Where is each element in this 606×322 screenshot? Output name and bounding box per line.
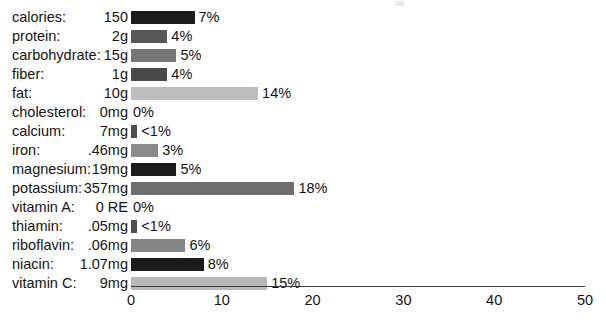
- nutrient-row: .05mgthiamin:<1%: [0, 217, 606, 236]
- nutrient-label: cholesterol:: [12, 103, 86, 122]
- bar: [131, 68, 167, 81]
- nutrient-label: iron:: [12, 141, 40, 160]
- nutrient-label: fat:: [12, 84, 32, 103]
- bar-track: 14%: [131, 84, 606, 103]
- bar-track: 5%: [131, 46, 606, 65]
- nutrient-row: .06mgriboflavin:6%: [0, 236, 606, 255]
- nutrient-label: niacin:: [12, 255, 54, 274]
- bar-track: 15%: [131, 274, 606, 293]
- bar-value-label: 14%: [262, 84, 291, 103]
- bar: [131, 239, 185, 252]
- bar-value-label: <1%: [141, 217, 170, 236]
- bar: [131, 182, 294, 195]
- bar-track: 0%: [131, 198, 606, 217]
- bar-value-label: 15%: [271, 274, 300, 293]
- nutrient-label: calcium:: [12, 122, 65, 141]
- nutrient-row: 150calories:7%: [0, 8, 606, 27]
- x-axis-tick-label: 0: [127, 291, 135, 309]
- nutrient-row: 15gcarbohydrate:5%: [0, 46, 606, 65]
- nutrient-label: thiamin:: [12, 217, 63, 236]
- nutrient-row: 10gfat:14%: [0, 84, 606, 103]
- x-axis-tick-label: 40: [486, 291, 502, 309]
- bar-value-label: 5%: [180, 46, 201, 65]
- bar-track: 7%: [131, 8, 606, 27]
- x-axis-tick-label: 50: [577, 291, 593, 309]
- nutrient-row: .46mgiron:3%: [0, 141, 606, 160]
- bar: [131, 258, 204, 271]
- bar-track: 3%: [131, 141, 606, 160]
- bar: [131, 144, 158, 157]
- bar-track: 4%: [131, 65, 606, 84]
- nutrient-label: carbohydrate:: [12, 46, 101, 65]
- bar: [131, 49, 176, 62]
- nutrition-bar-chart: 150calories:7%2gprotein:4%15gcarbohydrat…: [0, 0, 606, 322]
- bar: [131, 11, 195, 24]
- bar-value-label: 0%: [133, 198, 154, 217]
- bar-track: 18%: [131, 179, 606, 198]
- x-axis-tick-label: 10: [214, 291, 230, 309]
- nutrient-row: 357mgpotassium:18%: [0, 179, 606, 198]
- bar-value-label: 6%: [189, 236, 210, 255]
- nutrient-row: 19mgmagnesium:5%: [0, 160, 606, 179]
- nutrient-label: magnesium:: [12, 160, 91, 179]
- bar-value-label: 3%: [162, 141, 183, 160]
- bar: [131, 277, 267, 290]
- nutrient-row: 2gprotein:4%: [0, 27, 606, 46]
- nutrient-label: protein:: [12, 27, 60, 46]
- bar-track: 5%: [131, 160, 606, 179]
- bar-value-label: <1%: [141, 122, 170, 141]
- nutrient-row: 0 REvitamin A:0%: [0, 198, 606, 217]
- bar-value-label: 4%: [171, 27, 192, 46]
- bar: [131, 163, 176, 176]
- nutrient-label: potassium:: [12, 179, 82, 198]
- nutrient-row: 9mgvitamin C:15%: [0, 274, 606, 293]
- bar-value-label: 18%: [298, 179, 327, 198]
- nutrient-label: calories:: [12, 8, 66, 27]
- bar: [131, 30, 167, 43]
- bar: [131, 87, 258, 100]
- scan-artifact: [395, 1, 404, 6]
- bar-track: <1%: [131, 217, 606, 236]
- bar: [131, 220, 137, 233]
- bar-track: 6%: [131, 236, 606, 255]
- bar: [131, 125, 137, 138]
- nutrient-label: vitamin A:: [12, 198, 75, 217]
- bar-value-label: 7%: [199, 8, 220, 27]
- x-axis-tick-label: 20: [305, 291, 321, 309]
- nutrient-label: riboflavin:: [12, 236, 74, 255]
- nutrient-row: 1gfiber:4%: [0, 65, 606, 84]
- x-axis-tick-label: 30: [395, 291, 411, 309]
- bar-track: 4%: [131, 27, 606, 46]
- bar-value-label: 5%: [180, 160, 201, 179]
- bar-value-label: 0%: [133, 103, 154, 122]
- nutrient-label: vitamin C:: [12, 274, 76, 293]
- bar-value-label: 4%: [171, 65, 192, 84]
- nutrient-row: 7mgcalcium:<1%: [0, 122, 606, 141]
- bar-track: <1%: [131, 122, 606, 141]
- bar-track: 8%: [131, 255, 606, 274]
- bar-track: 0%: [131, 103, 606, 122]
- nutrient-row: 1.07mgniacin:8%: [0, 255, 606, 274]
- nutrient-label: fiber:: [12, 65, 44, 84]
- nutrient-row: 0mgcholesterol:0%: [0, 103, 606, 122]
- bar-value-label: 8%: [208, 255, 229, 274]
- nutrient-rows: 150calories:7%2gprotein:4%15gcarbohydrat…: [0, 8, 606, 293]
